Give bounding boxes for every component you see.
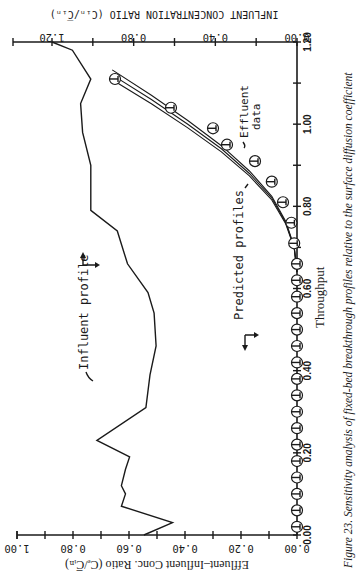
throughput-axis-label: Throughput: [312, 266, 327, 328]
effluent-data-point: [266, 176, 277, 187]
influent-leader-arrow: [86, 372, 93, 381]
influent-profile-label: Influent profile: [77, 254, 91, 370]
effluent-data-point: [166, 102, 177, 113]
effluent-tick-label: 0.40: [172, 543, 197, 555]
effluent-data-point: [292, 275, 303, 286]
effluent-data-point: [292, 291, 303, 302]
effluent-data-point: [208, 123, 219, 134]
predicted-profile-curve-2: [112, 75, 297, 272]
influent-ratio-axis-label: INFLUENT CONCENTRATION RATIO (Cᵢₙ/C̅ᵢₙ): [50, 9, 279, 21]
predicted-leader: [245, 184, 248, 188]
effluent-ratio-axis-label: Effluent–Influent Conc. Ratio (Cₑ/C̅ᵢₙ): [65, 558, 249, 571]
effluent-data-point: [292, 258, 303, 269]
throughput-tick-label: 0.00: [302, 525, 313, 545]
influent-tick-label: 0.40: [203, 32, 228, 44]
effluent-data-point: [292, 472, 303, 483]
influent-ratio-ticks: 0.000.400.801.20: [39, 32, 309, 46]
effluent-data-point: [286, 217, 297, 228]
effluent-data-point: [292, 423, 303, 434]
effluent-data-point: [222, 139, 233, 150]
throughput-tick-label: 1.00: [302, 114, 313, 134]
influent-tick-label: 0.00: [284, 32, 309, 44]
effluent-tick-label: 0.20: [228, 543, 253, 555]
predicted-profile-curve-3: [112, 70, 297, 272]
effluent-tick-label: 0.60: [116, 543, 141, 555]
influent-profile-line: [52, 42, 173, 535]
throughput-tick-label: 0.20: [302, 443, 313, 463]
effluent-data-point: [250, 156, 261, 167]
effluent-data-point: [292, 373, 303, 384]
effluent-data-point: [292, 390, 303, 401]
predicted-arrowhead-right: [254, 332, 259, 338]
effluent-data-point: [292, 324, 303, 335]
effluent-leader: [243, 142, 245, 148]
influent-arrowhead-right: [95, 262, 100, 268]
effluent-data-point: [110, 73, 121, 84]
effluent-data-point: [292, 505, 303, 516]
effluent-tick-label: 1.00: [4, 543, 29, 555]
effluent-data-markers: [110, 73, 303, 532]
effluent-data-point: [292, 308, 303, 319]
predicted-arrowhead-down: [242, 345, 248, 351]
effluent-data-point: [292, 357, 303, 368]
effluent-data-point: [292, 456, 303, 467]
predicted-profile-curve-1: [112, 80, 297, 272]
effluent-tick-label: 0.80: [60, 543, 85, 555]
influent-tick-label: 0.80: [121, 32, 146, 44]
throughput-tick-label: 0.80: [302, 196, 313, 216]
effluent-data-label-2: data: [250, 104, 263, 131]
throughput-tick-label: 0.40: [302, 360, 313, 380]
effluent-data-point: [292, 488, 303, 499]
effluent-data-point: [292, 439, 303, 450]
predicted-profiles: [112, 70, 297, 272]
figure-caption: Figure 23. Sensitivity analysis of fixed…: [342, 72, 355, 569]
effluent-data-point: [289, 238, 300, 249]
throughput-ticks: 0.000.200.400.600.801.001.20: [293, 32, 313, 545]
effluent-data-point: [292, 341, 303, 352]
breakthrough-chart: 0.000.200.400.600.801.001.20 0.000.200.4…: [0, 0, 358, 571]
effluent-data-point: [292, 406, 303, 417]
annotations: Influent profile Predicted profiles Effl…: [77, 85, 263, 381]
predicted-profiles-label: Predicted profiles: [232, 190, 246, 320]
effluent-data-point: [278, 197, 289, 208]
effluent-tick-label: 0.00: [284, 543, 309, 555]
effluent-data-point: [292, 521, 303, 532]
